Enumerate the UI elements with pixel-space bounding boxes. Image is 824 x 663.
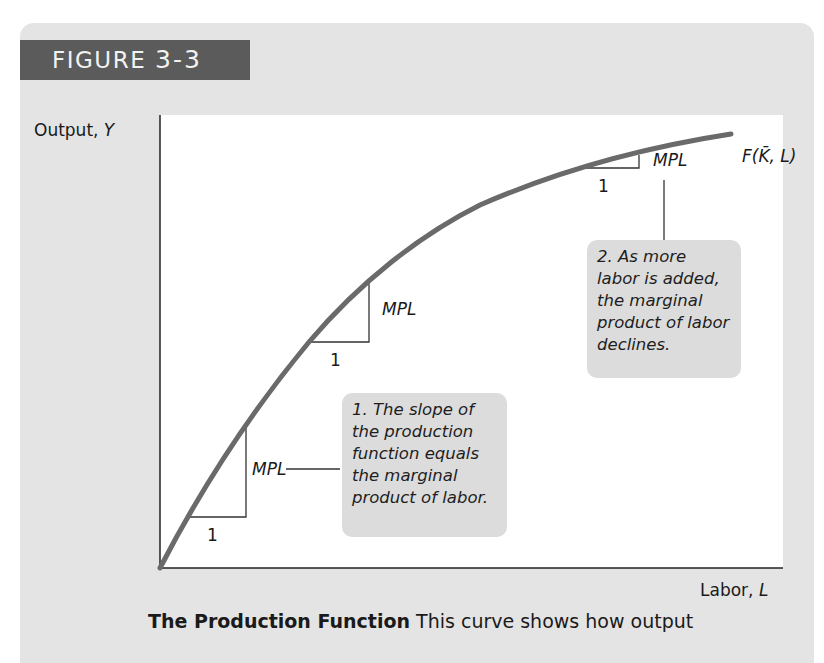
- note-diminishing-mpl: 2. As more labor is added, the marginal …: [587, 240, 741, 378]
- triangle-3-rise-label: MPL: [653, 150, 687, 170]
- caption-text: This curve shows how output: [410, 610, 693, 632]
- triangle-2-run-label: 1: [330, 350, 341, 370]
- x-axis-label: Labor, L: [700, 580, 768, 600]
- triangle-1-rise-label: MPL: [252, 459, 286, 479]
- caption-title: The Production Function: [148, 610, 410, 632]
- triangle-2-rise-label: MPL: [382, 299, 416, 319]
- y-axis-label: Output, Y: [34, 120, 114, 140]
- triangle-3-run-label: 1: [598, 176, 609, 196]
- curve-label: F(K̄, L): [742, 146, 796, 166]
- figure-caption: The Production Function This curve shows…: [148, 610, 693, 632]
- note-slope-equals-mpl: 1. The slope of the production function …: [342, 393, 507, 537]
- triangle-1-run-label: 1: [207, 525, 218, 545]
